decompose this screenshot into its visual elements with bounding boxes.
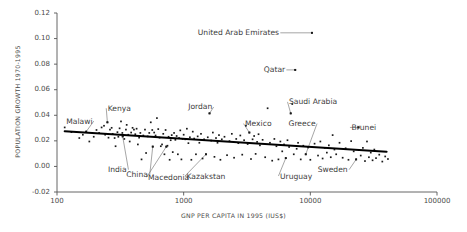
country-label: Kenya bbox=[108, 104, 131, 113]
y-tick-label: -0.02 bbox=[20, 188, 50, 196]
y-tick-label: 0.08 bbox=[20, 60, 50, 68]
y-tick-label: 0.02 bbox=[20, 136, 50, 144]
y-axis-title: POPULATION GROWTH 1970-1995 bbox=[14, 37, 21, 167]
y-tick-label: 0.00 bbox=[20, 162, 50, 170]
scatter-points bbox=[64, 32, 389, 163]
country-label: Qatar bbox=[264, 65, 285, 74]
country-label: Sweden bbox=[318, 165, 348, 174]
y-tick-label: 0.04 bbox=[20, 111, 50, 119]
country-label: Jordan bbox=[188, 102, 212, 111]
trend-line bbox=[65, 131, 387, 151]
x-tick-label: 1000 bbox=[154, 197, 214, 205]
x-tick-label: 10000 bbox=[280, 197, 340, 205]
country-label: United Arab Emirates bbox=[198, 28, 279, 37]
country-label: Uruguay bbox=[280, 172, 312, 181]
x-tick-label: 100 bbox=[27, 197, 87, 205]
country-label: Saudi Arabia bbox=[289, 97, 337, 106]
x-axis-title: GNP PER CAPITA IN 1995 (IUS$) bbox=[0, 212, 467, 219]
y-tick-label: 0.10 bbox=[20, 34, 50, 42]
country-label: China bbox=[126, 170, 148, 179]
country-label: India bbox=[108, 165, 127, 174]
country-label: Macedonia bbox=[148, 173, 189, 182]
country-label: Brunei bbox=[351, 123, 376, 132]
country-label: Mexico bbox=[245, 119, 272, 128]
country-label: Greece bbox=[289, 119, 316, 128]
y-tick-label: 0.06 bbox=[20, 85, 50, 93]
y-tick-label: 0.12 bbox=[20, 9, 50, 17]
country-label: Kazakstan bbox=[186, 172, 225, 181]
country-label: Malawi bbox=[66, 117, 92, 126]
population-growth-scatter-chart: POPULATION GROWTH 1970-1995 GNP PER CAPI… bbox=[0, 0, 467, 232]
x-tick-label: 100000 bbox=[407, 197, 467, 205]
